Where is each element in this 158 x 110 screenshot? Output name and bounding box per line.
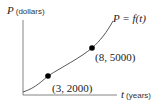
point-label-8-5000: (8, 5000)	[95, 51, 136, 64]
curve-label: P = f(t)	[112, 12, 146, 25]
point-label-3-2000: (3, 2000)	[52, 82, 93, 95]
data-point-8-5000	[89, 45, 95, 51]
chart: P(dollars) t(years) P = f(t) (3, 2000) (…	[0, 0, 158, 110]
data-point-3-2000	[45, 73, 51, 79]
x-axis-label: t(years)	[121, 88, 151, 100]
y-axis-label: P(dollars)	[6, 4, 45, 16]
